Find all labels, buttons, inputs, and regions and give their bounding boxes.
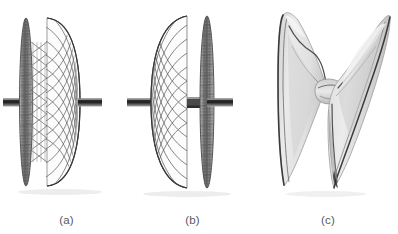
- figure-panel-a: (a): [0, 0, 133, 234]
- panel-b-left-disc: [145, 0, 189, 205]
- panel-a-right-shaft: [78, 99, 102, 107]
- panel-b-caption: (b): [125, 214, 260, 226]
- figure-panel-c: (c): [258, 0, 398, 234]
- panel-b-illustration: [125, 0, 260, 205]
- panel-b-shadow: [143, 191, 231, 197]
- panel-a-waist: [31, 42, 47, 162]
- panel-b-right-shaft: [207, 99, 233, 107]
- panel-b-left-shaft: [127, 99, 153, 107]
- panel-a-left-disc: [19, 18, 33, 186]
- panel-c-shadow: [286, 191, 366, 197]
- panel-a-caption: (a): [0, 214, 133, 226]
- panel-c-right-lobe: [328, 15, 390, 188]
- figure-container: (a): [0, 0, 398, 234]
- figure-panel-b: (b): [125, 0, 260, 234]
- panel-c-caption: (c): [258, 214, 398, 226]
- panel-c-illustration: [258, 0, 398, 205]
- panel-a-shadow: [18, 189, 102, 195]
- panel-a-illustration: [0, 0, 133, 205]
